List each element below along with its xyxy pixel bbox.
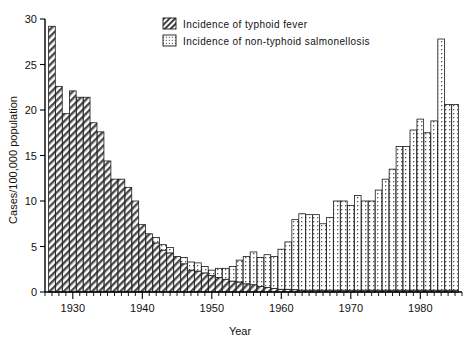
- bar-segment: [257, 287, 264, 292]
- bar-segment: [56, 86, 63, 292]
- bar-segment: [146, 234, 153, 292]
- bar-segment: [334, 201, 341, 290]
- bar-segment: [69, 91, 76, 292]
- bar-segment: [90, 123, 97, 292]
- bar-segment: [285, 242, 292, 289]
- bar-segment: [292, 220, 299, 290]
- bar-segment: [229, 267, 236, 282]
- bar-segment: [188, 270, 195, 292]
- bar-segment: [104, 161, 111, 292]
- bar-segment: [354, 196, 361, 291]
- bar-segment: [236, 260, 243, 282]
- bar-segment: [167, 247, 174, 252]
- bar-segment: [243, 284, 250, 292]
- y-tick-label: 20: [25, 104, 37, 116]
- x-tick-label: 1950: [200, 302, 224, 314]
- bar-segment: [174, 257, 181, 292]
- bar-segment: [424, 133, 431, 290]
- bar-segment: [271, 257, 278, 289]
- bar-segment: [181, 264, 188, 292]
- bar-segment: [63, 114, 70, 292]
- bar-segment: [368, 201, 375, 290]
- bar-segment: [111, 179, 118, 292]
- legend-label: Incidence of typhoid fever: [183, 19, 308, 30]
- bar-segment: [250, 285, 257, 292]
- bar-segment: [83, 97, 90, 292]
- legend-swatch: [163, 35, 176, 46]
- legend-label: Incidence of non-typhoid salmonellosis: [183, 36, 370, 47]
- bar-segment: [347, 206, 354, 291]
- x-tick-label: 1960: [269, 302, 293, 314]
- y-tick-label: 30: [25, 13, 37, 25]
- bar-segment: [153, 237, 160, 242]
- bar-segment: [222, 279, 229, 292]
- bar-segment: [139, 225, 146, 292]
- bar-segment: [160, 250, 167, 292]
- bar-segment: [417, 119, 424, 290]
- bar-segment: [118, 179, 125, 292]
- bar-segment: [389, 169, 396, 290]
- bar-segment: [49, 26, 56, 292]
- chart-legend: Incidence of typhoid feverIncidence of n…: [163, 18, 370, 47]
- bar-segment: [257, 257, 264, 286]
- bar-segment: [215, 277, 222, 292]
- x-tick-label: 1980: [408, 302, 432, 314]
- bar-segment: [403, 146, 410, 290]
- bar-segment: [264, 255, 271, 288]
- x-tick-label: 1970: [339, 302, 363, 314]
- x-axis-title: Year: [229, 325, 252, 337]
- bar-segment: [202, 267, 209, 273]
- legend-swatch: [163, 18, 176, 29]
- y-tick-label: 10: [25, 195, 37, 207]
- bar-segment: [202, 273, 209, 292]
- bar-segment: [188, 262, 195, 270]
- bar-segment: [375, 190, 382, 290]
- bar-segment: [195, 271, 202, 292]
- bar-segment: [320, 224, 327, 290]
- y-tick-label: 25: [25, 59, 37, 71]
- bar-segment: [208, 270, 215, 275]
- y-axis-title: Cases/100,000 population: [7, 96, 19, 224]
- bar-segment: [438, 39, 445, 290]
- y-tick-label: 5: [31, 241, 37, 253]
- x-tick-label: 1930: [61, 302, 85, 314]
- bars-group: [49, 26, 459, 292]
- bar-segment: [229, 281, 236, 292]
- bar-segment: [97, 132, 104, 292]
- bar-segment: [299, 214, 306, 290]
- bar-segment: [132, 201, 139, 292]
- bar-segment: [236, 282, 243, 292]
- bar-segment: [195, 263, 202, 271]
- bar-segment: [445, 105, 452, 291]
- bar-segment: [76, 97, 83, 292]
- bar-segment: [313, 215, 320, 291]
- bar-segment: [396, 146, 403, 290]
- bar-segment: [382, 179, 389, 290]
- bar-segment: [361, 201, 368, 290]
- bar-segment: [306, 215, 313, 291]
- bar-segment: [243, 257, 250, 284]
- bar-segment: [160, 245, 167, 250]
- x-tick-label: 1940: [130, 302, 154, 314]
- bar-segment: [215, 268, 222, 277]
- bar-segment: [327, 217, 334, 290]
- bar-segment: [153, 243, 160, 292]
- bar-segment: [278, 249, 285, 289]
- bar-segment: [181, 257, 188, 263]
- bar-segment: [167, 253, 174, 292]
- bar-segment: [250, 252, 257, 285]
- bar-segment: [410, 130, 417, 290]
- bar-segment: [341, 201, 348, 290]
- bar-segment: [125, 187, 132, 292]
- chart-container: 051015202530193019401950196019701980 Inc…: [0, 0, 474, 347]
- y-tick-label: 0: [31, 286, 37, 298]
- bar-segment: [222, 268, 229, 279]
- incidence-bar-chart: 051015202530193019401950196019701980 Inc…: [0, 0, 474, 347]
- bar-segment: [452, 105, 459, 291]
- y-tick-label: 15: [25, 150, 37, 162]
- bar-segment: [208, 276, 215, 292]
- bar-segment: [431, 121, 438, 290]
